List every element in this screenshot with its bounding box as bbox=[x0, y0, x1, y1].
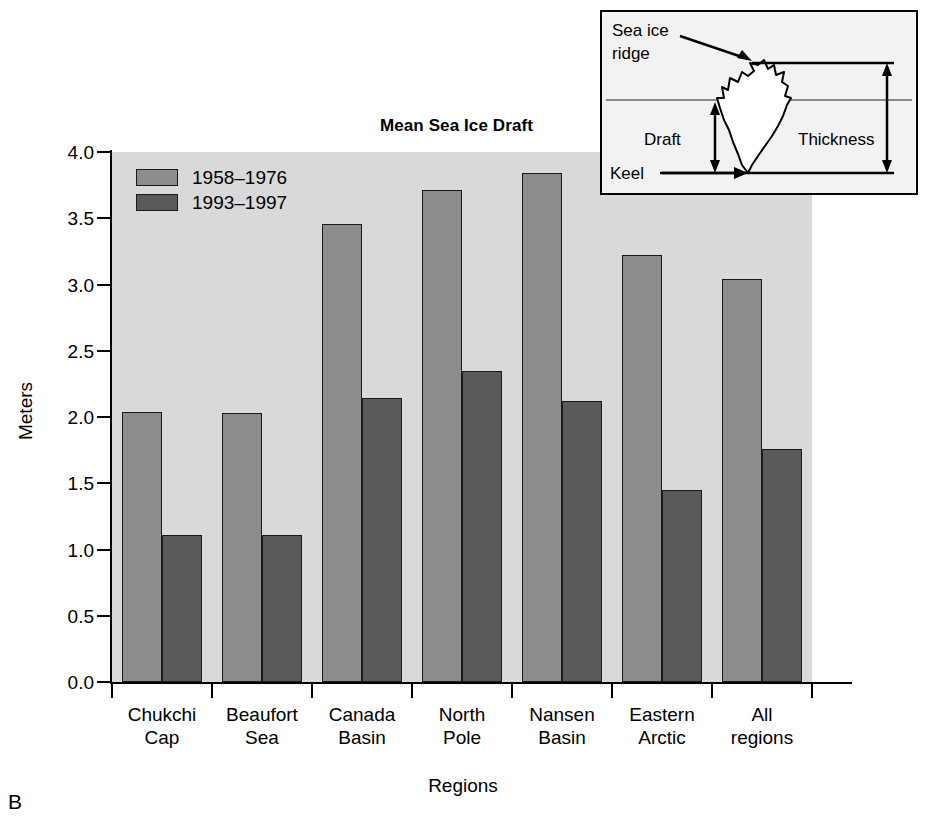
bar-series1 bbox=[122, 412, 162, 682]
x-axis-tick bbox=[111, 684, 113, 698]
y-axis-tick bbox=[97, 151, 110, 153]
y-axis-tick-label: 3.5 bbox=[40, 209, 94, 228]
y-axis-tick-label: 4.0 bbox=[40, 143, 94, 162]
bar-series1 bbox=[522, 173, 562, 682]
x-axis-category-label: CanadaBasin bbox=[312, 703, 412, 749]
ice-ridge-shape bbox=[717, 60, 791, 173]
bar-series1 bbox=[722, 279, 762, 682]
x-axis-category-label: NansenBasin bbox=[512, 703, 612, 749]
bar-series2 bbox=[162, 535, 202, 682]
x-axis-tick bbox=[211, 684, 213, 698]
legend-swatch-1993-1997 bbox=[136, 194, 178, 211]
chart-legend: 1958–1976 1993–1997 bbox=[136, 166, 287, 216]
legend-item-1993-1997: 1993–1997 bbox=[136, 191, 287, 213]
y-axis-tick bbox=[97, 615, 110, 617]
x-axis-tick bbox=[511, 684, 513, 698]
x-axis-category-label: Allregions bbox=[712, 703, 812, 749]
y-axis-line bbox=[110, 150, 112, 684]
x-axis-category-line: regions bbox=[712, 726, 812, 749]
x-axis-category-line: Pole bbox=[412, 726, 512, 749]
y-axis-tick bbox=[97, 217, 110, 219]
y-axis-tick-label: 2.0 bbox=[40, 408, 94, 427]
bar-series2 bbox=[262, 535, 302, 682]
bar-series2 bbox=[362, 398, 402, 682]
y-axis-tick-label: 2.5 bbox=[40, 341, 94, 360]
legend-item-1958-1976: 1958–1976 bbox=[136, 166, 287, 188]
figure-panel-b: Mean Sea Ice Draft 4.03.53.02.52.01.51.0… bbox=[0, 0, 926, 824]
x-axis-category-line: North bbox=[412, 703, 512, 726]
inset-label-thickness: Thickness bbox=[798, 130, 875, 149]
bar-series1 bbox=[322, 224, 362, 682]
x-axis-tick bbox=[611, 684, 613, 698]
y-axis-tick-label: 1.0 bbox=[40, 540, 94, 559]
y-axis-tick-label: 1.5 bbox=[40, 474, 94, 493]
x-axis-tick bbox=[311, 684, 313, 698]
x-axis-tick bbox=[711, 684, 713, 698]
x-axis-category-line: All bbox=[712, 703, 812, 726]
x-axis-category-line: Beaufort bbox=[212, 703, 312, 726]
y-axis-tick bbox=[97, 350, 110, 352]
y-axis-tick-label: 0.0 bbox=[40, 673, 94, 692]
bar-series2 bbox=[462, 371, 502, 682]
thickness-arrow-head-down bbox=[882, 160, 892, 173]
bar-series1 bbox=[222, 413, 262, 682]
x-axis-category-line: Sea bbox=[212, 726, 312, 749]
y-axis-tick bbox=[97, 549, 110, 551]
inset-label-keel: Keel bbox=[610, 164, 644, 183]
inset-svg: Sea ice ridge Keel Draft Thickness bbox=[602, 12, 916, 193]
inset-label-sea-ice-ridge-line1: Sea ice bbox=[612, 21, 669, 40]
x-axis-category-line: Arctic bbox=[612, 726, 712, 749]
legend-label-1993-1997: 1993–1997 bbox=[192, 193, 287, 212]
x-axis-category-label: EasternArctic bbox=[612, 703, 712, 749]
bar-series1 bbox=[422, 190, 462, 682]
bar-series2 bbox=[562, 401, 602, 682]
x-axis-title: Regions bbox=[0, 775, 926, 797]
x-axis-category-line: Eastern bbox=[612, 703, 712, 726]
sea-ice-ridge-inset-diagram: Sea ice ridge Keel Draft Thickness bbox=[600, 10, 918, 195]
x-axis-category-line: Chukchi bbox=[112, 703, 212, 726]
y-axis-tick bbox=[97, 416, 110, 418]
y-axis-tick bbox=[97, 681, 110, 683]
bar-series2 bbox=[662, 490, 702, 682]
x-axis-category-label: ChukchiCap bbox=[112, 703, 212, 749]
bar-series2 bbox=[762, 449, 802, 682]
y-axis-tick bbox=[97, 482, 110, 484]
x-axis-tick bbox=[411, 684, 413, 698]
inset-label-sea-ice-ridge-line2: ridge bbox=[612, 44, 650, 63]
x-axis-category-line: Cap bbox=[112, 726, 212, 749]
bar-series1 bbox=[622, 255, 662, 682]
x-axis-category-line: Basin bbox=[512, 726, 612, 749]
thickness-arrow-head-up bbox=[882, 63, 892, 76]
panel-letter: B bbox=[8, 790, 22, 814]
draft-arrow-head-down bbox=[710, 160, 720, 173]
legend-swatch-1958-1976 bbox=[136, 169, 178, 186]
sea-ice-ridge-pointer-shaft bbox=[680, 36, 745, 58]
y-axis-tick bbox=[97, 284, 110, 286]
sea-ice-ridge-pointer-head bbox=[737, 50, 752, 61]
inset-label-draft: Draft bbox=[644, 130, 681, 149]
y-axis-tick-label: 0.5 bbox=[40, 606, 94, 625]
x-axis-line bbox=[110, 682, 852, 684]
legend-label-1958-1976: 1958–1976 bbox=[192, 168, 287, 187]
x-axis-tick bbox=[811, 684, 813, 698]
y-axis-tick-label: 3.0 bbox=[40, 275, 94, 294]
x-axis-category-label: NorthPole bbox=[412, 703, 512, 749]
x-axis-category-line: Basin bbox=[312, 726, 412, 749]
y-axis-title: Meters bbox=[15, 351, 37, 471]
x-axis-category-line: Nansen bbox=[512, 703, 612, 726]
x-axis-category-line: Canada bbox=[312, 703, 412, 726]
x-axis-category-label: BeaufortSea bbox=[212, 703, 312, 749]
chart-title: Mean Sea Ice Draft bbox=[380, 116, 533, 136]
